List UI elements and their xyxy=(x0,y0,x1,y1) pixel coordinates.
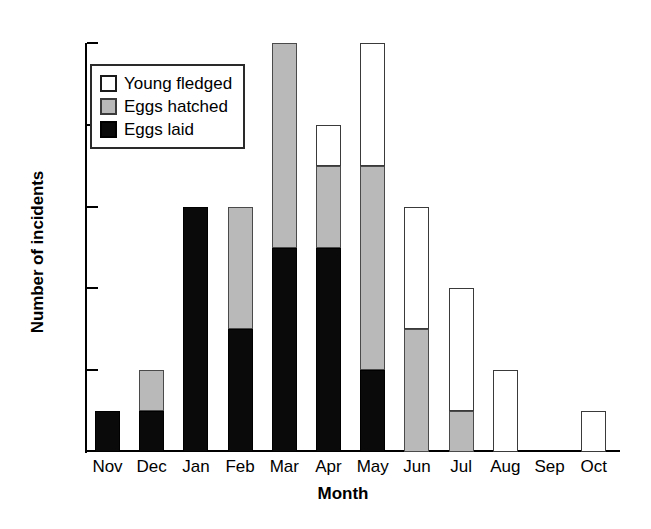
bar-segment-young-fledged xyxy=(404,207,429,330)
legend-item: Eggs hatched xyxy=(100,95,232,118)
bar-segment-young-fledged xyxy=(316,125,341,166)
bar xyxy=(228,207,253,452)
bar xyxy=(404,207,429,452)
bar xyxy=(581,411,606,452)
legend-swatch-gray xyxy=(100,98,117,115)
bar-segment-eggs-hatched xyxy=(316,166,341,248)
bar xyxy=(183,207,208,452)
bar xyxy=(493,370,518,452)
legend-label: Eggs hatched xyxy=(124,98,228,115)
y-axis-title: Number of incidents xyxy=(28,142,48,362)
bar xyxy=(139,370,164,452)
x-axis-line xyxy=(85,450,620,452)
legend-label: Eggs laid xyxy=(124,121,194,138)
bar-segment-eggs-hatched xyxy=(404,329,429,452)
legend-item: Young fledged xyxy=(100,72,232,95)
bar-segment-eggs-hatched xyxy=(360,166,385,371)
bar-segment-young-fledged xyxy=(449,288,474,411)
bar xyxy=(360,43,385,452)
bar-segment-eggs-hatched xyxy=(272,43,297,248)
y-tick-mark xyxy=(87,369,98,371)
bar-segment-eggs-laid xyxy=(360,370,385,452)
legend-item: Eggs laid xyxy=(100,118,232,141)
bar-chart: Number of incidents 246810 NovDecJanFebM… xyxy=(0,0,651,529)
bar-segment-eggs-laid xyxy=(139,411,164,452)
bar xyxy=(95,411,120,452)
bar-segment-eggs-laid xyxy=(316,248,341,453)
x-axis-title-text: Month xyxy=(318,484,369,504)
bar-segment-eggs-hatched xyxy=(449,411,474,452)
bar-segment-young-fledged xyxy=(493,370,518,452)
x-tick-label: Oct xyxy=(568,457,619,477)
x-axis-title: Month xyxy=(0,484,651,504)
legend-swatch-black xyxy=(100,121,117,138)
bar xyxy=(316,125,341,452)
bar-segment-eggs-laid xyxy=(272,248,297,453)
bar-segment-eggs-hatched xyxy=(139,370,164,411)
bar-segment-eggs-laid xyxy=(95,411,120,452)
legend: Young fledgedEggs hatchedEggs laid xyxy=(90,64,245,149)
bar-segment-eggs-laid xyxy=(228,329,253,452)
y-tick-mark xyxy=(87,206,98,208)
bar-segment-young-fledged xyxy=(360,43,385,166)
y-tick-mark xyxy=(87,42,98,44)
bar xyxy=(449,288,474,452)
bar-segment-young-fledged xyxy=(581,411,606,452)
bar-segment-eggs-hatched xyxy=(228,207,253,330)
bar xyxy=(272,43,297,452)
legend-swatch-white xyxy=(100,75,117,92)
legend-label: Young fledged xyxy=(124,75,232,92)
y-axis-line xyxy=(85,43,87,453)
y-tick-mark xyxy=(87,287,98,289)
bar-segment-eggs-laid xyxy=(183,207,208,452)
